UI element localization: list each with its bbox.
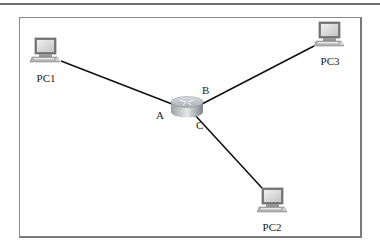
router-icon[interactable]	[171, 97, 203, 118]
port-c-label: C	[196, 120, 203, 131]
pc2-label: PC2	[263, 222, 282, 233]
pc3-label: PC3	[321, 56, 340, 67]
port-a-label: A	[156, 110, 164, 121]
link-pc3-router	[202, 46, 314, 104]
pc1-computer-icon[interactable]	[30, 38, 60, 62]
link-router-pc2	[194, 114, 262, 188]
pc2-computer-icon[interactable]	[257, 188, 287, 212]
pc1-label: PC1	[37, 73, 56, 84]
topology-canvas	[0, 0, 380, 252]
pc3-computer-icon[interactable]	[314, 22, 344, 46]
port-b-label: B	[202, 85, 209, 96]
link-pc1-router	[61, 61, 172, 104]
